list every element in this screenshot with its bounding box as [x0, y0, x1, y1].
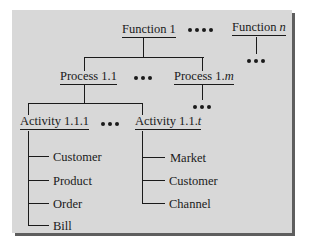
connector-line: [142, 203, 165, 204]
entity-label: Bill: [53, 219, 72, 233]
process-1-m-node: Process 1.m: [174, 69, 234, 85]
function-n-label-var: n: [280, 20, 286, 34]
entity-label: Customer: [53, 150, 102, 164]
function-ellipsis-dots: [188, 28, 213, 32]
activity-1-1-1-node: Activity 1.1.1: [20, 114, 89, 130]
connector-line: [28, 180, 49, 181]
entity-label: Product: [53, 174, 92, 188]
connector-line: [142, 157, 165, 158]
function-n-node: Function n: [232, 20, 286, 36]
connector-line: [202, 85, 203, 100]
function-n-label-prefix: Function: [232, 20, 280, 34]
function-1-label: Function 1: [122, 22, 176, 36]
activity-1-1-1-label: Activity 1.1.1: [20, 114, 89, 128]
connector-line: [84, 85, 85, 104]
process-ellipsis-dots: [134, 76, 152, 80]
connector-line: [28, 131, 29, 226]
connector-line: [28, 103, 143, 104]
process-1-m-continuation-dots: [193, 105, 211, 109]
function-n-continuation-dots: [247, 59, 265, 63]
activity-1-1-t-node: Activity 1.1.t: [135, 114, 201, 130]
process-1-m-label-var: m: [225, 69, 234, 83]
connector-line: [28, 156, 49, 157]
connector-line: [28, 225, 49, 226]
activity-ellipsis-dots: [101, 122, 119, 126]
entity-label: Order: [53, 197, 82, 211]
connector-line: [143, 38, 144, 58]
activity-1-1-t-label-var: t: [198, 114, 201, 128]
connector-line: [84, 57, 204, 58]
process-1-1-node: Process 1.1: [60, 69, 117, 85]
process-1-1-label: Process 1.1: [60, 69, 117, 83]
process-1-m-label-prefix: Process 1.: [174, 69, 225, 83]
connector-line: [256, 37, 257, 54]
connector-line: [28, 203, 49, 204]
connector-line: [142, 131, 143, 204]
entity-label: Market: [170, 151, 206, 165]
connector-line: [142, 180, 165, 181]
entity-label: Channel: [169, 197, 211, 211]
function-1-node: Function 1: [122, 22, 176, 38]
entity-label: Customer: [169, 174, 218, 188]
activity-1-1-t-label-prefix: Activity 1.1.: [135, 114, 198, 128]
